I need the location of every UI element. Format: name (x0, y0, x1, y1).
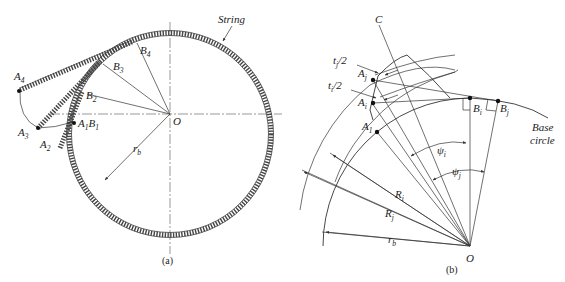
label-string: String (218, 13, 245, 25)
point-A1 (375, 130, 379, 134)
label-Aj: Aj (357, 67, 367, 82)
label-ti-half: ti/2 (328, 79, 342, 94)
label-psi-i: ψi (437, 144, 446, 159)
point-Bi (468, 96, 472, 100)
point-Aj (371, 78, 375, 82)
label-A3: A3 (17, 126, 29, 141)
point-A3 (36, 126, 40, 130)
label-C: C (375, 13, 383, 25)
label-Ai: Ai (357, 96, 367, 111)
label-O-a: O (173, 115, 181, 127)
label-Bi: Bi (473, 102, 482, 117)
base-circle-arc (323, 98, 548, 246)
arc-Rj-right (375, 55, 455, 75)
label-O-b: O (466, 252, 474, 264)
arc-Rj-left (300, 67, 455, 210)
tooth-profile (370, 55, 450, 120)
label-Ri: Ri (394, 188, 404, 203)
label-B2: B2 (86, 89, 97, 104)
ti-half-arrow-inner (384, 95, 398, 100)
caption-a: (a) (162, 255, 173, 267)
right-angle-Bj (486, 99, 496, 111)
panel-b: C tj/2 ti/2 Aj Ai A1 Bi Bj Base circle ψ… (300, 13, 555, 276)
involute-diagram: String A4 A3 A2 A1B1 B2 B3 B4 O rb (a) (0, 0, 565, 282)
label-tj-half: tj/2 (333, 54, 347, 69)
label-rb-b: rb (388, 233, 396, 248)
label-A1B1: A1B1 (77, 117, 99, 132)
radius-B2 (87, 94, 170, 114)
radius-OBj (470, 101, 498, 246)
label-base-circle-2: circle (530, 134, 555, 146)
label-B4: B4 (140, 44, 151, 59)
caption-b: (b) (446, 264, 458, 276)
unwound-strings (20, 40, 132, 148)
point-Ai (371, 101, 375, 105)
radius-OAj (373, 80, 470, 246)
label-A1: A1 (361, 120, 372, 135)
rb-arrow (326, 232, 470, 246)
point-A1B1 (72, 121, 76, 125)
label-Rj: Rj (384, 207, 394, 222)
rb-dimension-arrow (105, 114, 170, 180)
string-pointer (223, 26, 232, 41)
label-psi-j: ψj (452, 165, 461, 180)
label-Bj: Bj (500, 102, 509, 117)
panel-a: String A4 A3 A2 A1B1 B2 B3 B4 O rb (a) (13, 13, 282, 267)
point-A4 (17, 89, 21, 93)
label-base-circle-1: Base (532, 121, 554, 133)
label-A4: A4 (13, 70, 25, 85)
tangent-Aj-Bj (373, 80, 498, 101)
label-A2: A2 (39, 138, 51, 153)
